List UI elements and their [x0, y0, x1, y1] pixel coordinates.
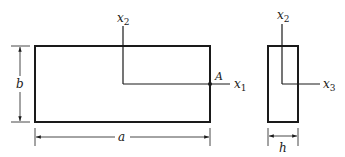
x1-axis-label: x1	[234, 77, 247, 93]
x3-axis-label: x3	[323, 77, 336, 93]
point-a-marker	[208, 82, 212, 86]
side-x2-axis-label: x2	[277, 8, 290, 24]
b-dimension-label: b	[16, 77, 24, 91]
front-view: x2 x1 A b a	[11, 11, 247, 146]
a-dimension-label: a	[118, 130, 125, 144]
beam-cross-section-diagram: x2 x1 A b a x2 x3	[0, 0, 345, 157]
h-dimension-label: h	[279, 141, 287, 155]
x2-axis-label: x2	[117, 11, 130, 27]
side-view: x2 x3 h	[268, 8, 336, 155]
point-a-label: A	[214, 70, 223, 83]
